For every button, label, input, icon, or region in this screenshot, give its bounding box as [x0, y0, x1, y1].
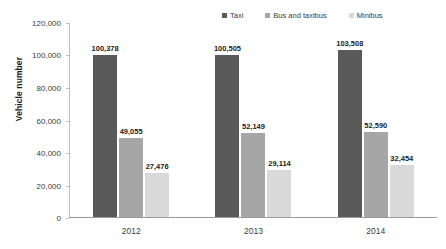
y-tick: 60,000: [66, 121, 69, 122]
bar-group-bars: 103,50852,59032,454: [315, 23, 437, 217]
bar-group: 100,37849,05527,4762012: [70, 23, 192, 217]
y-tick-label: 80,000: [37, 83, 61, 92]
legend-swatch-taxi: [222, 13, 227, 18]
bar[interactable]: [145, 173, 169, 217]
bar-column: 52,590: [364, 23, 388, 217]
bar-column: 49,055: [119, 23, 143, 217]
bar[interactable]: [119, 138, 143, 217]
legend-swatch-minibus: [349, 13, 354, 18]
bar[interactable]: [241, 133, 265, 217]
legend-label-minibus: Minibus: [357, 11, 383, 20]
bar-value-label: 100,378: [92, 44, 119, 53]
bar-column: 52,149: [241, 23, 265, 217]
legend-item-minibus[interactable]: Minibus: [349, 11, 383, 20]
bar-column: 100,378: [93, 23, 117, 217]
bar[interactable]: [390, 165, 414, 217]
legend-item-bus-and-taxibus[interactable]: Bus and taxibus: [265, 11, 326, 20]
x-axis-line: [69, 217, 437, 218]
legend-item-taxi[interactable]: Taxi: [222, 11, 243, 20]
chart-legend: Taxi Bus and taxibus Minibus: [222, 8, 440, 22]
y-tick: 120,000: [66, 23, 69, 24]
y-tick: 80,000: [66, 88, 69, 89]
legend-label-taxi: Taxi: [230, 11, 243, 20]
bar-group-bars: 100,50552,14929,114: [192, 23, 314, 217]
bar-value-label: 100,505: [214, 44, 241, 53]
legend-label-bus-and-taxibus: Bus and taxibus: [273, 11, 326, 20]
plot-area: 120,000100,00080,00060,00040,00020,0000 …: [69, 23, 437, 218]
y-tick-label: 20,000: [37, 181, 61, 190]
bar-chart: Taxi Bus and taxibus Minibus Vehicle num…: [0, 0, 446, 249]
y-tick-label: 120,000: [32, 19, 61, 28]
x-axis-category-label: 2012: [70, 226, 192, 236]
bar[interactable]: [93, 55, 117, 217]
y-tick-label: 100,000: [32, 51, 61, 60]
bar-value-label: 52,590: [364, 121, 387, 130]
y-tick-label: 40,000: [37, 148, 61, 157]
bar-column: 32,454: [390, 23, 414, 217]
bar-group: 103,50852,59032,4542014: [315, 23, 437, 217]
y-axis-title: Vehicle number: [14, 34, 24, 144]
bar-column: 100,505: [215, 23, 239, 217]
y-tick: 40,000: [66, 153, 69, 154]
bar-value-label: 103,508: [336, 39, 363, 48]
x-axis-category-label: 2014: [315, 226, 437, 236]
y-tick: 0: [66, 218, 69, 219]
bar[interactable]: [364, 132, 388, 217]
bar-value-label: 29,114: [268, 159, 291, 168]
bar-column: 29,114: [267, 23, 291, 217]
bar-groups: 100,37849,05527,4762012100,50552,14929,1…: [70, 23, 437, 217]
bar-column: 103,508: [338, 23, 362, 217]
bar[interactable]: [338, 50, 362, 217]
bar-value-label: 52,149: [242, 122, 265, 131]
x-axis-category-label: 2013: [192, 226, 314, 236]
bar-value-label: 27,476: [146, 162, 169, 171]
legend-swatch-bus-and-taxibus: [265, 13, 270, 18]
y-tick: 100,000: [66, 55, 69, 56]
bar-group: 100,50552,14929,1142013: [192, 23, 314, 217]
bar-value-label: 32,454: [390, 154, 413, 163]
y-tick: 20,000: [66, 186, 69, 187]
bar[interactable]: [215, 55, 239, 217]
bar-value-label: 49,055: [120, 127, 143, 136]
bar-column: 27,476: [145, 23, 169, 217]
y-tick-label: 0: [57, 214, 61, 223]
bar-group-bars: 100,37849,05527,476: [70, 23, 192, 217]
bar[interactable]: [267, 170, 291, 217]
y-tick-label: 60,000: [37, 116, 61, 125]
